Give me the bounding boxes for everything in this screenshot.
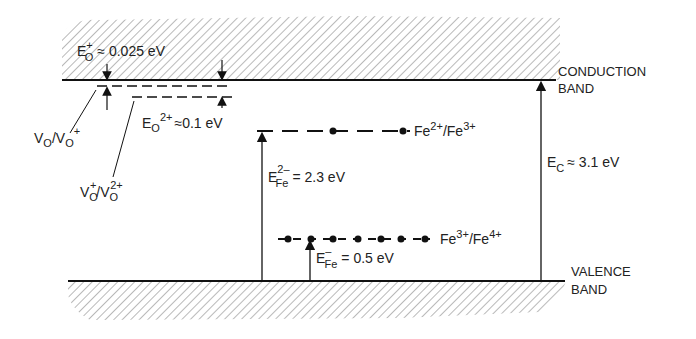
vo-plus-leader (113, 101, 134, 177)
fe2-fe3-label: Fe2+/Fe3+ (414, 120, 476, 139)
fe3-energy-label: E–Fe= 0.5 eV (316, 245, 395, 270)
fe2-energy-label: E2–Fe= 2.3 eV (268, 163, 346, 189)
vo-vo-plus-label: VO/VO+ (34, 125, 80, 149)
conduction-band-label: CONDUCTION (558, 64, 646, 79)
valence-band-label: VALENCE (571, 264, 631, 279)
valence-band-label-2: BAND (571, 282, 607, 297)
vo-plus-vo2-label: VO+/VO2+ (80, 179, 123, 203)
band-diagram: CONDUCTION BAND VALENCE BAND EC≈ 3.1 eV … (0, 0, 696, 339)
gap-energy-label: EC≈ 3.1 eV (547, 154, 620, 174)
valence-band-hatch (68, 281, 566, 320)
level-fe3-fe4: Fe3+/Fe4+ (278, 228, 502, 247)
fe3-fe4-label: Fe3+/Fe4+ (440, 228, 502, 247)
eo2-label: EO2+≈0.1 eV (142, 111, 223, 134)
level-fe2-fe3: Fe2+/Fe3+ (257, 120, 476, 139)
conduction-band-label-2: BAND (558, 81, 594, 96)
